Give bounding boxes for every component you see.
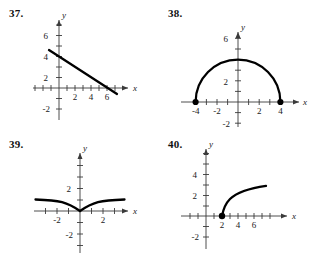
- x-tick-label-6: 6: [105, 92, 110, 102]
- endpoint-dot-left-38: [193, 99, 199, 105]
- y-tick-label-4: 4: [44, 52, 49, 62]
- x-tick-label-2: 2: [73, 92, 78, 102]
- y-axis-label-40: y: [208, 139, 213, 149]
- x-tick-label-4: 4: [89, 92, 94, 102]
- axes-39: [34, 153, 128, 253]
- endpoint-dot-40: [219, 213, 225, 219]
- x-tick-label-4: 4: [278, 106, 283, 116]
- x-axis-label-39: x: [132, 206, 137, 216]
- y-tick-label-neg2: -2: [43, 104, 51, 114]
- y-axis-label-38: y: [240, 22, 245, 32]
- y-tick-label-2: 2: [67, 184, 72, 194]
- graph-37: 6 4 2 -2 2 4 6 x y: [0, 0, 158, 131]
- y-axis-label-37: y: [61, 10, 66, 20]
- y-tick-label-6: 6: [224, 34, 229, 44]
- y-tick-label-neg2: -2: [223, 119, 231, 129]
- x-axis-label-38: x: [302, 97, 307, 107]
- x-axis-label-37: x: [132, 83, 137, 93]
- x-tick-label-2: 2: [101, 215, 106, 225]
- y-tick-label-2: 2: [44, 73, 49, 83]
- x-tick-label-neg2: -2: [213, 106, 221, 116]
- x-tick-label-2: 2: [220, 220, 225, 230]
- problem-panel-40: 40.: [159, 131, 317, 262]
- y-tick-label-4: 4: [193, 170, 198, 180]
- graph-39: -2 2 2 -2 x y: [0, 131, 158, 262]
- worksheet-page: 37.: [0, 0, 317, 262]
- problem-panel-39: 39.: [0, 131, 158, 262]
- graph-40: 2 4 6 4 2 -2 x y: [159, 131, 317, 262]
- y-tick-label-2: 2: [193, 191, 198, 201]
- sqrt-curve-plot-40: [222, 186, 266, 216]
- y-tick-label-neg2: -2: [192, 232, 200, 242]
- x-tick-label-4: 4: [236, 220, 241, 230]
- tick-labels-37: 6 4 2 -2 2 4 6: [43, 31, 110, 115]
- problem-panel-37: 37.: [0, 0, 158, 131]
- y-tick-label-neg2: -2: [66, 230, 74, 240]
- endpoint-dot-right-38: [277, 99, 283, 105]
- x-tick-label-6: 6: [252, 220, 257, 230]
- x-tick-label-neg2: -2: [53, 215, 61, 225]
- graph-38: -4 -2 2 4 6 2 -2 x y: [159, 0, 317, 131]
- x-axis-label-40: x: [291, 211, 296, 221]
- y-tick-label-2: 2: [224, 77, 229, 87]
- y-axis-label-39: y: [82, 143, 87, 153]
- x-tick-label-2: 2: [257, 106, 262, 116]
- x-tick-label-neg4: -4: [192, 106, 200, 116]
- problem-panel-38: 38.: [159, 0, 317, 131]
- y-tick-label-6: 6: [44, 31, 49, 41]
